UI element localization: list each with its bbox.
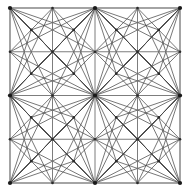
mesh-node-minor bbox=[9, 138, 12, 141]
mesh-node-hub bbox=[8, 6, 12, 10]
mesh-node-minor bbox=[9, 50, 12, 53]
mesh-node-minor bbox=[94, 138, 97, 141]
mesh-node-hub bbox=[93, 93, 97, 97]
mesh-node-minor bbox=[72, 72, 75, 75]
mesh-node-minor bbox=[157, 116, 160, 119]
mesh-node-hub bbox=[178, 93, 182, 97]
mesh-diagram-canvas bbox=[0, 0, 188, 191]
mesh-node-minor bbox=[72, 116, 75, 119]
mesh-node-minor bbox=[30, 29, 33, 32]
mesh-node-minor bbox=[51, 138, 54, 141]
mesh-node-hub bbox=[8, 93, 12, 97]
mesh-node-minor bbox=[136, 94, 139, 97]
mesh-node-minor bbox=[72, 29, 75, 32]
mesh-node-minor bbox=[179, 138, 182, 141]
mesh-node-minor bbox=[115, 29, 118, 32]
mesh-node-hub bbox=[93, 6, 97, 10]
mesh-node-minor bbox=[179, 50, 182, 53]
mesh-node-minor bbox=[136, 7, 139, 10]
mesh-node-minor bbox=[157, 72, 160, 75]
quadrant-centroid-tie bbox=[31, 52, 52, 74]
quadrant-centroid-tie bbox=[116, 52, 137, 74]
mesh-node-minor bbox=[115, 160, 118, 163]
mesh-node-minor bbox=[51, 182, 54, 185]
mesh-node-hub bbox=[8, 181, 12, 185]
quadrant-centroid-tie bbox=[53, 30, 74, 52]
mesh-node-minor bbox=[157, 160, 160, 163]
mesh-node-minor bbox=[136, 182, 139, 185]
quadrant-centroid-tie bbox=[116, 117, 137, 139]
mesh-node-minor bbox=[136, 138, 139, 141]
mesh-node-minor bbox=[30, 160, 33, 163]
quadrant-centroid-tie bbox=[53, 139, 74, 161]
mesh-node-hub bbox=[93, 181, 97, 185]
mesh-node-minor bbox=[72, 160, 75, 163]
quadrant-centroid-tie bbox=[138, 117, 159, 139]
quadrant-centroid-tie bbox=[31, 30, 52, 52]
quadrant-centroid-tie bbox=[116, 30, 137, 52]
mesh-figure bbox=[0, 0, 188, 191]
mesh-node-minor bbox=[51, 94, 54, 97]
quadrant-centroid-tie bbox=[116, 139, 137, 161]
quadrant-centroid-tie bbox=[53, 52, 74, 74]
quadrant-centroid-tie bbox=[138, 52, 159, 74]
quadrant-centroid-tie bbox=[31, 117, 52, 139]
mesh-node-minor bbox=[94, 50, 97, 53]
mesh-node-minor bbox=[51, 7, 54, 10]
mesh-node-minor bbox=[30, 116, 33, 119]
mesh-node-minor bbox=[115, 72, 118, 75]
mesh-node-minor bbox=[115, 116, 118, 119]
mesh-node-minor bbox=[51, 50, 54, 53]
quadrant-centroid-tie bbox=[31, 139, 52, 161]
mesh-node-hub bbox=[178, 6, 182, 10]
quadrant-centroid-tie bbox=[53, 117, 74, 139]
mesh-node-minor bbox=[136, 50, 139, 53]
quadrant-centroid-tie bbox=[138, 139, 159, 161]
mesh-node-hub bbox=[178, 181, 182, 185]
mesh-node-minor bbox=[157, 29, 160, 32]
mesh-node-minor bbox=[30, 72, 33, 75]
quadrant-centroid-tie bbox=[138, 30, 159, 52]
